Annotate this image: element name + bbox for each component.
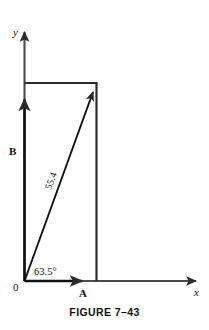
- origin-label: 0: [13, 281, 19, 293]
- y-axis-label: y: [12, 26, 18, 38]
- resultant-vector-arrow: [25, 92, 94, 281]
- vector-a-label: A: [79, 287, 87, 299]
- x-axis-label: x: [193, 286, 199, 298]
- vector-b-label: B: [9, 145, 17, 157]
- figure-container: y x 0 A B 55.4 63.5° FIGURE 7–43: [0, 0, 209, 330]
- angle-label: 63.5°: [34, 266, 57, 277]
- vector-diagram: y x 0 A B 55.4 63.5°: [0, 0, 209, 330]
- figure-caption: FIGURE 7–43: [0, 306, 209, 318]
- resultant-magnitude-label: 55.4: [43, 171, 59, 191]
